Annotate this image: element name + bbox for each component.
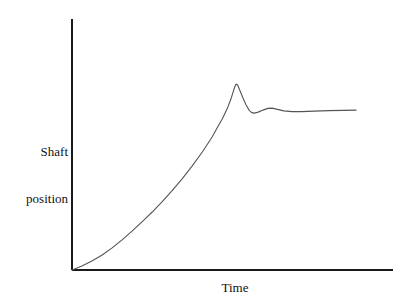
y-axis-label-line-1: Shaft xyxy=(0,144,68,160)
shaft-position-curve xyxy=(72,84,356,270)
data-series-group xyxy=(72,84,356,270)
x-axis-label: Time xyxy=(150,280,320,296)
y-axis-label: Shaft position xyxy=(0,112,68,239)
axes-group xyxy=(72,19,393,270)
y-axis-label-line-2: position xyxy=(0,191,68,207)
figure-container: Shaft position Time xyxy=(0,0,411,304)
